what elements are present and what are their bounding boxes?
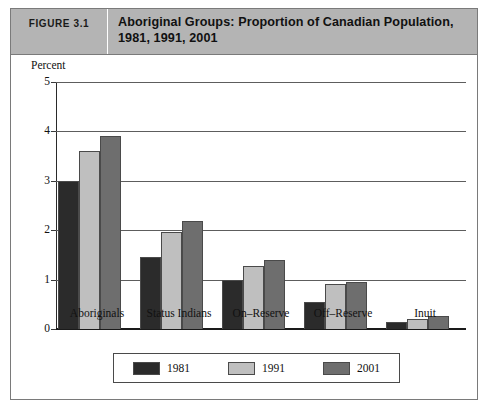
legend-label: 2001	[357, 362, 380, 374]
y-axis-tick	[51, 230, 56, 231]
y-axis-tick-label: 2	[34, 223, 50, 235]
bar	[243, 266, 264, 329]
figure-frame: FIGURE 3.1 Aboriginal Groups: Proportion…	[10, 8, 478, 400]
bar	[79, 151, 100, 329]
y-axis-tick-label: 1	[34, 273, 50, 285]
legend-entry: 1991	[228, 362, 285, 375]
bar-group	[222, 82, 285, 329]
figure-number-cell: FIGURE 3.1	[11, 9, 108, 54]
bar	[407, 319, 428, 329]
y-axis-tick-label: 5	[34, 75, 50, 87]
legend-swatch	[133, 362, 160, 375]
bar	[346, 282, 367, 329]
figure-header: FIGURE 3.1 Aboriginal Groups: Proportion…	[11, 9, 477, 55]
bar-group	[386, 82, 449, 329]
legend-entry: 1981	[133, 362, 190, 375]
y-axis-tick	[51, 181, 56, 182]
bar	[386, 322, 407, 329]
x-axis-category-label: Aboriginals	[56, 307, 138, 319]
legend-label: 1991	[262, 362, 285, 374]
bar-group	[304, 82, 367, 329]
y-axis-tick-label: 4	[34, 124, 50, 136]
y-axis-tick	[51, 131, 56, 132]
figure-title: Aboriginal Groups: Proportion of Canadia…	[118, 15, 469, 46]
x-axis-category-label: Inuit	[384, 307, 466, 319]
y-axis-unit-label: Percent	[31, 59, 65, 71]
legend-label: 1981	[167, 362, 190, 374]
bar-group	[140, 82, 203, 329]
bar-group	[58, 82, 121, 329]
legend-swatch	[228, 362, 255, 375]
bar	[222, 280, 243, 329]
figure-number-label: FIGURE 3.1	[29, 18, 89, 29]
x-axis-category-label: On–Reserve	[220, 307, 302, 319]
x-axis-category-label: Status Indians	[138, 307, 220, 319]
y-axis-tick	[51, 329, 56, 330]
chart-legend: 198119912001	[113, 353, 400, 383]
y-axis-tick-label: 3	[34, 174, 50, 186]
y-axis-tick-label: 0	[34, 322, 50, 334]
chart-body: Percent 012345 AboriginalsStatus Indians…	[11, 55, 477, 399]
plot-area: 012345	[56, 82, 466, 329]
legend-entry: 2001	[323, 362, 380, 375]
y-axis-tick	[51, 82, 56, 83]
legend-swatch	[323, 362, 350, 375]
figure-title-cell: Aboriginal Groups: Proportion of Canadia…	[108, 9, 477, 54]
y-axis-tick	[51, 280, 56, 281]
x-axis-category-label: Off–Reserve	[302, 307, 384, 319]
bar	[100, 136, 121, 329]
